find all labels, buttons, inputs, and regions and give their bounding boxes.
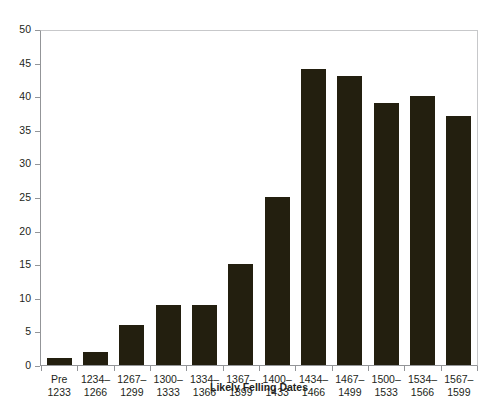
y-axis-tick-label: 20 [19,225,31,237]
y-axis-tick-label: 5 [25,325,31,337]
bar-slot [41,30,77,365]
x-axis-title: Likely Felling Dates [40,381,478,393]
x-axis-tick-mark [295,366,296,371]
y-axis-tick-mark [35,164,40,165]
y-axis-tick-mark [35,64,40,65]
x-axis-tick-mark [223,366,224,371]
bar[interactable] [265,197,290,365]
bar-slot [368,30,404,365]
y-axis-tick-mark [35,131,40,132]
bar[interactable] [47,358,72,365]
x-axis-tick-mark [186,366,187,371]
y-axis-tick-mark [35,97,40,98]
y-axis-tick-label: 15 [19,258,31,270]
y-axis: 05101520253035404550 [0,30,40,366]
bar[interactable] [337,76,362,365]
y-axis-tick-label: 50 [19,23,31,35]
bar[interactable] [228,264,253,365]
bar[interactable] [83,352,108,365]
bar-slot [150,30,186,365]
bar-chart-figure: 05101520253035404550 Pre 12331234– 12661… [0,0,494,404]
bar[interactable] [374,103,399,365]
x-axis-tick-mark [114,366,115,371]
bar-slot [186,30,222,365]
x-axis-tick-mark [77,366,78,371]
y-axis-tick-label: 45 [19,57,31,69]
x-axis-tick-mark [404,366,405,371]
bar-slot [295,30,331,365]
bar[interactable] [410,96,435,365]
y-axis-tick-label: 25 [19,191,31,203]
bar-slot [77,30,113,365]
bar[interactable] [446,116,471,365]
bar-slot [114,30,150,365]
y-axis-tick-mark [35,265,40,266]
y-axis-tick-label: 40 [19,90,31,102]
bar[interactable] [119,325,144,365]
y-axis-tick-mark [35,232,40,233]
x-axis-tick-mark [368,366,369,371]
bar[interactable] [301,69,326,365]
y-axis-tick-label: 10 [19,292,31,304]
bar[interactable] [156,305,181,365]
x-axis-tick-mark [150,366,151,371]
y-axis-tick-mark [35,332,40,333]
bar-slot [441,30,477,365]
x-axis-end-tick-mark [477,366,478,371]
y-axis-tick-label: 0 [25,359,31,371]
x-axis-tick-mark [441,366,442,371]
x-axis-tick-mark [259,366,260,371]
y-axis-tick-mark [35,198,40,199]
y-axis-tick-mark [35,299,40,300]
bar-slot [223,30,259,365]
x-axis-tick-mark [332,366,333,371]
y-axis-tick-label: 30 [19,157,31,169]
bar-slot [404,30,440,365]
x-axis-tick-mark [41,366,42,371]
bar-slot [259,30,295,365]
y-axis-tick-mark [35,30,40,31]
bars-layer [41,30,477,365]
bar-slot [332,30,368,365]
bar[interactable] [192,305,217,365]
y-axis-tick-mark [35,366,40,367]
y-axis-tick-label: 35 [19,124,31,136]
